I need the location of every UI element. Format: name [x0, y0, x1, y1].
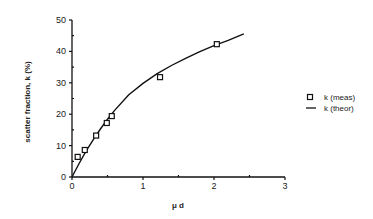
axes: 012301020304050	[56, 15, 288, 191]
y-tick-label: 40	[56, 46, 66, 56]
theor-polyline	[72, 34, 244, 177]
measured-point-square-icon	[104, 120, 109, 125]
measured-point-square-icon	[158, 75, 163, 80]
scatter-fraction-chart: 012301020304050 scatter fraction, k (%) …	[0, 0, 373, 219]
measured-point-square-icon	[94, 133, 99, 138]
legend-square-marker-icon	[308, 95, 313, 100]
legend-meas-label: k (meas)	[324, 93, 355, 102]
measured-point-square-icon	[82, 147, 87, 152]
x-tick-label: 3	[282, 181, 287, 191]
legend: k (meas) k (theor)	[306, 93, 355, 113]
y-tick-label: 10	[56, 141, 66, 151]
theoretical-curve	[72, 34, 244, 177]
x-tick-label: 0	[69, 181, 74, 191]
measured-point-square-icon	[75, 154, 80, 159]
measured-point-square-icon	[214, 42, 219, 47]
x-axis-label: μ d	[172, 201, 184, 210]
y-tick-label: 0	[61, 172, 66, 182]
y-axis-label: scatter fraction, k (%)	[23, 61, 32, 143]
y-tick-label: 50	[56, 15, 66, 25]
legend-theor-label: k (theor)	[324, 104, 354, 113]
x-tick-label: 2	[211, 181, 216, 191]
x-tick-label: 1	[140, 181, 145, 191]
y-tick-label: 30	[56, 78, 66, 88]
measured-point-square-icon	[109, 114, 114, 119]
measured-points	[75, 42, 219, 160]
y-tick-label: 20	[56, 109, 66, 119]
